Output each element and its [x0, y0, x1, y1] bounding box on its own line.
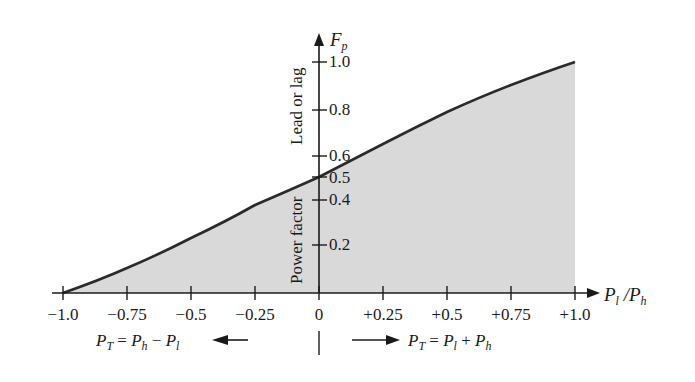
y-tick-label-1.0: 1.0	[329, 53, 350, 70]
x-axis-arrow-icon	[587, 288, 600, 298]
left-equation: PT = Ph − Pl	[96, 332, 179, 352]
x-tick-label: +1.0	[560, 306, 591, 323]
left-arrow-icon	[212, 335, 228, 345]
x-tick-label: −0.25	[235, 306, 274, 323]
right-equation: PT = Pl + Ph	[408, 332, 491, 352]
y-tick-label-0.2: 0.2	[329, 236, 350, 253]
lead-or-lag-label: Lead or lag	[287, 68, 307, 145]
x-tick-label: +0.75	[491, 306, 530, 323]
y-tick-label-0.6: 0.6	[329, 147, 350, 164]
x-axis-title: Pl /Ph	[604, 285, 647, 307]
power-factor-label: Power factor	[287, 197, 307, 284]
x-tick-label: +0.25	[363, 306, 402, 323]
x-tick-label: +0.5	[432, 306, 463, 323]
x-tick-label: 0	[315, 306, 324, 323]
x-tick-label: −1.0	[48, 306, 79, 323]
right-arrow-icon	[386, 335, 400, 345]
x-tick-label: −0.75	[107, 306, 146, 323]
y-tick-label-0.4: 0.4	[329, 191, 350, 208]
y-axis-title: Fp	[330, 30, 348, 52]
x-tick-label: −0.5	[176, 306, 207, 323]
y-tick-label-0.8: 0.8	[329, 101, 350, 118]
y-tick-label-0.5: 0.5	[329, 169, 350, 186]
y-axis-arrow-icon	[314, 33, 324, 46]
